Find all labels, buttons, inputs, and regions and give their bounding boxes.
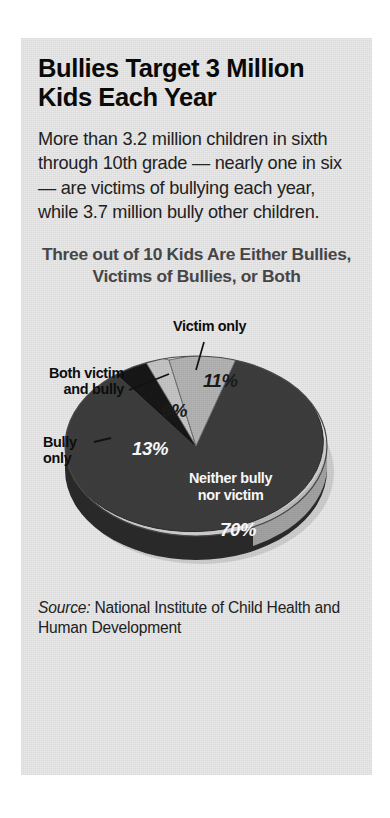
pie-label-both-line1: Both victim bbox=[49, 365, 124, 382]
pie-label-neither: Neither bully nor victim bbox=[189, 470, 272, 505]
pie-value-both: 6% bbox=[161, 400, 187, 422]
source-line: Source: National Institute of Child Heal… bbox=[38, 598, 355, 639]
pie-label-both-victim-and-bully: Both victim and bully bbox=[49, 365, 124, 398]
lede-paragraph: More than 3.2 million children in sixth … bbox=[38, 127, 355, 224]
pie-label-bully-line2: only bbox=[43, 450, 77, 467]
infographic-panel: Bullies Target 3 Million Kids Each Year … bbox=[21, 38, 372, 775]
pie-value-victim-only: 11% bbox=[203, 370, 238, 392]
pie-label-neither-line1: Neither bully bbox=[189, 470, 272, 487]
pie-label-bully-line1: Bully bbox=[43, 434, 77, 451]
pie-value-neither: 70% bbox=[220, 519, 256, 541]
pie-label-both-line2: and bully bbox=[49, 381, 124, 398]
pie-value-bully-only: 13% bbox=[132, 438, 168, 460]
pie-chart: Victim only Both victim and bully Bully … bbox=[21, 294, 372, 594]
pie-label-victim-only: Victim only bbox=[173, 318, 246, 335]
pie-label-neither-line2: nor victim bbox=[189, 487, 272, 504]
chart-title: Three out of 10 Kids Are Either Bullies,… bbox=[38, 244, 355, 288]
source-label: Source: bbox=[38, 599, 90, 616]
page-title: Bullies Target 3 Million Kids Each Year bbox=[38, 38, 355, 112]
pie-label-bully-only: Bully only bbox=[43, 434, 77, 467]
